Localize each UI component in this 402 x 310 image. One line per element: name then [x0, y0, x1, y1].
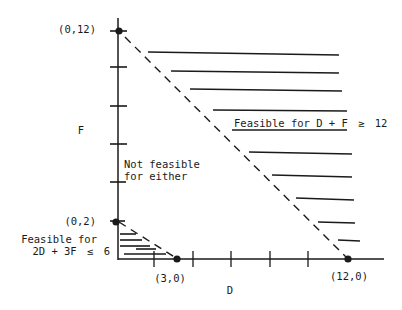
point-label-0-12: (0,12): [58, 23, 96, 35]
region-label-small-op: ≤: [87, 245, 93, 257]
region-label-middle-line2: for either: [124, 170, 187, 182]
region-label-small-value: 6: [104, 245, 110, 257]
region-label-small-prefix: 2D + 3F: [32, 245, 76, 257]
region-label-small-line2: 2D + 3F ≤ 6: [32, 245, 110, 257]
y-axis-label: F: [78, 124, 84, 136]
region-label-middle-line1: Not feasible: [124, 158, 200, 170]
point-label-12-0: (12,0): [330, 270, 368, 282]
point-label-0-2: (0,2): [64, 215, 96, 227]
hatching-large-region: [148, 52, 360, 241]
region-label-large-prefix: Feasible for D + F: [234, 117, 348, 129]
point-3-0-marker: [173, 255, 180, 262]
x-axis-label: D: [227, 284, 233, 296]
constraint-line-d-plus-f-12: [125, 37, 346, 257]
region-label-small-line1: Feasible for: [21, 233, 97, 245]
region-label-large: Feasible for D + F ≥ 12: [234, 117, 387, 129]
point-12-0-marker: [344, 255, 351, 262]
region-label-large-op: ≥: [358, 117, 364, 129]
point-label-3-0: (3,0): [154, 272, 186, 284]
point-0-2-marker: [112, 218, 119, 225]
region-label-large-value: 12: [375, 117, 388, 129]
feasibility-diagram: (0,12) (0,2) (3,0) (12,0) F D Feasible f…: [0, 0, 402, 310]
point-0-12-marker: [115, 27, 122, 34]
